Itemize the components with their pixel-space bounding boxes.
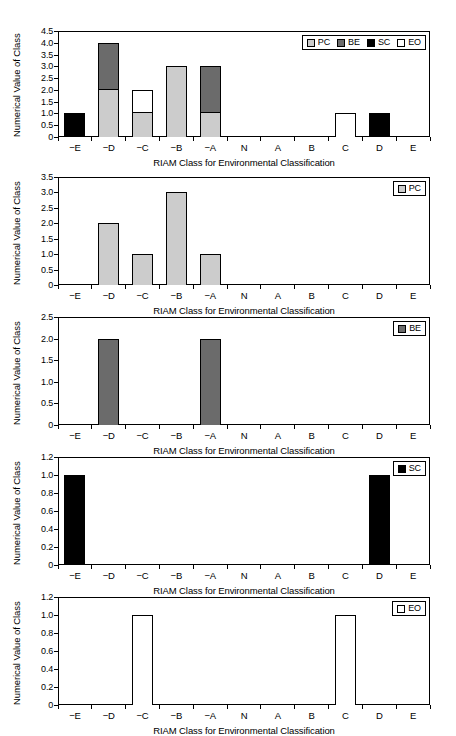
bar[interactable] [132,254,153,285]
bar-slot [261,31,295,137]
legend-item-eo[interactable]: EO [397,604,421,613]
x-axis-tick-label: E [396,142,430,153]
legend-label: SC [409,464,421,473]
bar-slot [295,457,329,565]
x-axis-tick-mark [396,565,430,569]
x-axis-tick-mark [329,425,363,429]
x-axis-tick-mark [58,705,92,709]
bar-slot [261,317,295,425]
bar-slot [159,457,193,565]
x-axis-tick-mark [126,137,160,141]
x-axis-tick-mark [396,137,430,141]
x-axis-tick-mark [362,705,396,709]
bar-slot [295,317,329,425]
x-axis-tick-label: N [227,710,261,721]
bar-slot [92,457,126,565]
x-axis-ticks [58,425,430,429]
bar-segment-be [200,66,221,113]
bar-slot [362,597,396,705]
legend: PC [393,181,426,196]
x-axis-tick-label: D [362,710,396,721]
x-axis-tick-label: C [329,142,363,153]
x-axis-tick-mark [126,705,160,709]
x-axis-tick-mark [362,137,396,141]
x-axis-tick-mark [193,425,227,429]
bar[interactable] [166,192,187,285]
y-axis: 00.51.01.52.02.5 [0,300,58,440]
plot-area: SC [58,457,430,565]
x-axis-tick-mark [295,565,329,569]
x-axis-tick-mark [159,565,193,569]
x-axis-tick-label: B [295,142,329,153]
x-axis-tick-mark [58,565,92,569]
bar-slot [261,177,295,285]
x-axis-tick-mark [261,425,295,429]
x-axis-ticks [58,285,430,289]
x-axis-tick-mark [193,705,227,709]
legend-item-pc[interactable]: PC [307,38,330,47]
x-axis-tick-label: A [261,710,295,721]
x-axis-tick-mark [396,425,430,429]
bar[interactable] [98,43,119,137]
x-axis-tick-mark [92,705,126,709]
bar-segment-be [98,43,119,90]
y-axis: 00.20.40.60.81.01.2 [0,440,58,580]
bar-slot [227,457,261,565]
bar[interactable] [200,66,221,137]
x-axis-tick-mark [396,705,430,709]
x-axis-tick-label: −D [92,710,126,721]
legend-item-sc[interactable]: SC [398,464,421,473]
legend-swatch-be-icon [337,39,345,47]
bar-segment-pc [200,254,221,285]
bar-slot [362,177,396,285]
x-axis-tick-mark [430,285,431,289]
legend-swatch-eo-icon [397,605,405,613]
x-axis-tick-mark [295,705,329,709]
y-axis: 00.20.40.60.81.01.2 [0,580,58,720]
legend-item-eo[interactable]: EO [397,38,421,47]
bar[interactable] [200,254,221,285]
bar-slot [362,457,396,565]
legend-item-sc[interactable]: SC [367,38,390,47]
bar-slot [159,177,193,285]
legend-swatch-sc-icon [367,39,375,47]
bar[interactable] [64,113,85,137]
bar-slot [329,177,363,285]
bar[interactable] [132,615,153,705]
bar-segment-sc [64,475,85,565]
plot-area: PC [58,177,430,285]
x-axis-tick-label: −B [159,710,193,721]
bar-slot [159,597,193,705]
bar[interactable] [98,223,119,285]
bar-slot [193,317,227,425]
x-axis-ticks [58,565,430,569]
legend-swatch-sc-icon [398,465,406,473]
bar[interactable] [132,90,153,137]
bar[interactable] [200,339,221,425]
x-axis-label: RIAM Class for Environmental Classificat… [58,725,430,736]
bar[interactable] [369,475,390,565]
legend-item-be[interactable]: BE [398,324,421,333]
x-axis-tick-mark [92,137,126,141]
x-axis-tick-mark [159,705,193,709]
bar-slot [227,597,261,705]
bar[interactable] [369,113,390,137]
x-axis-tick-label: −E [58,142,92,153]
bar-slot [329,317,363,425]
bar[interactable] [64,475,85,565]
bar-segment-sc [369,475,390,565]
x-axis-tick-mark [362,565,396,569]
bar-slot [92,31,126,137]
bar-segment-pc [166,192,187,285]
legend: EO [392,601,426,616]
legend-item-be[interactable]: BE [337,38,360,47]
bar[interactable] [335,615,356,705]
bar[interactable] [335,113,356,137]
bar[interactable] [98,339,119,425]
bar-slot [193,31,227,137]
bar-slot [126,31,160,137]
x-axis-tick-labels: −E−D−C−B−ANABCDE [58,710,430,721]
bar[interactable] [166,66,187,137]
x-axis-tick-mark [227,285,261,289]
legend-item-pc[interactable]: PC [398,184,421,193]
